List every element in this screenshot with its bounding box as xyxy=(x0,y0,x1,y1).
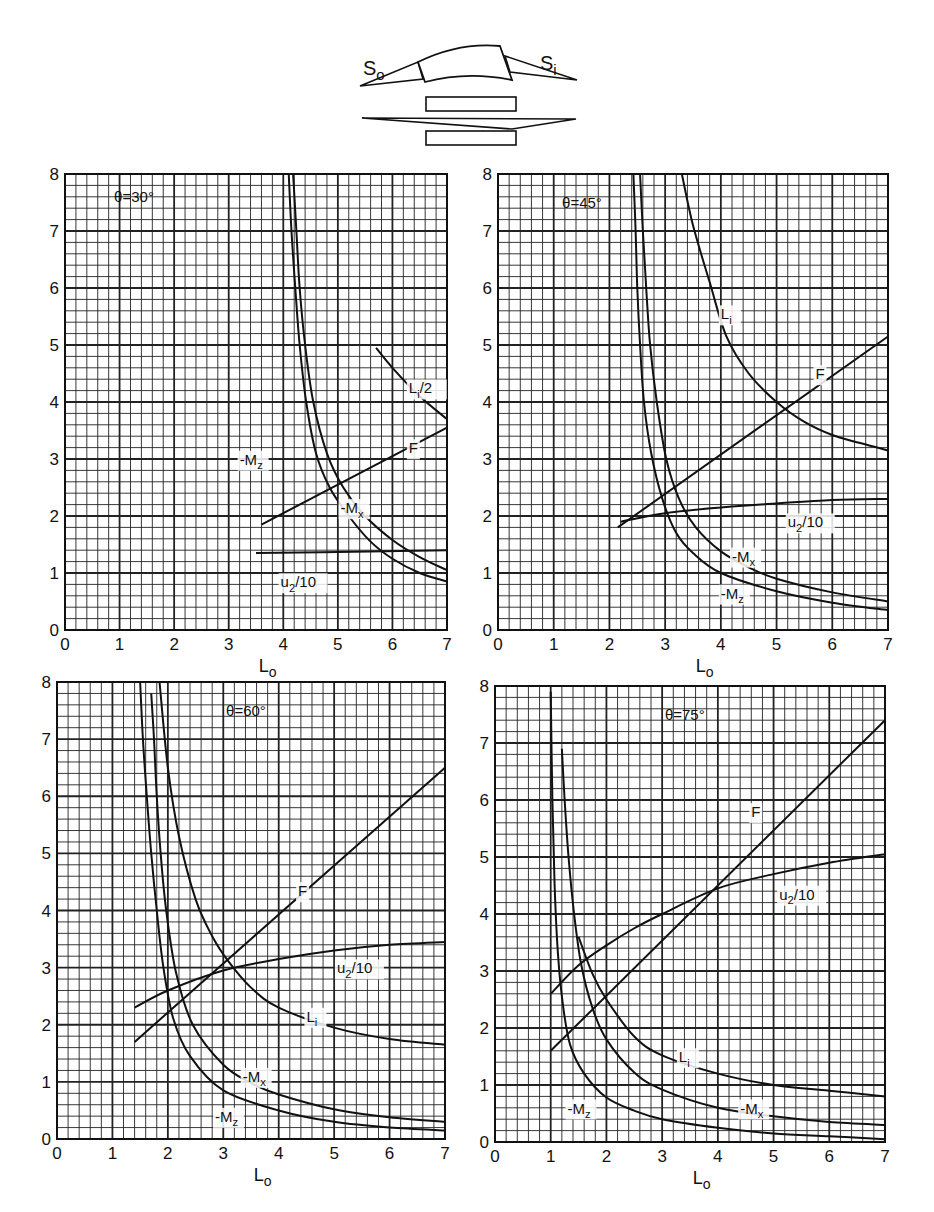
series-curve xyxy=(640,174,888,602)
x-tick-label: 5 xyxy=(772,635,781,654)
y-tick-label: 1 xyxy=(480,1076,489,1095)
x-tick-label: 4 xyxy=(279,635,288,654)
x-tick-label: 6 xyxy=(828,635,837,654)
y-tick-label: 8 xyxy=(50,165,59,184)
x-tick-label: 7 xyxy=(440,1144,449,1163)
y-tick-label: 4 xyxy=(483,393,492,412)
figure: So Si 01234567012345678Loθ=30°-Mz-MxFu2/… xyxy=(0,0,934,1212)
grid xyxy=(498,174,888,630)
y-tick-label: 5 xyxy=(480,848,489,867)
y-tick-label: 1 xyxy=(50,564,59,583)
series-curve xyxy=(682,174,888,450)
x-tick-label: 7 xyxy=(883,635,892,654)
x-tick-label: 0 xyxy=(52,1144,61,1163)
x-tick-label: 5 xyxy=(769,1147,778,1166)
x-tick-label: 0 xyxy=(490,1147,499,1166)
y-tick-label: 3 xyxy=(42,959,51,978)
y-tick-label: 8 xyxy=(483,165,492,184)
y-tick-label: 5 xyxy=(50,336,59,355)
y-tick-label: 3 xyxy=(480,962,489,981)
y-tick-label: 2 xyxy=(42,1016,51,1035)
x-tick-label: 1 xyxy=(549,635,558,654)
x-tick-label: 7 xyxy=(880,1147,889,1166)
y-tick-label: 5 xyxy=(483,336,492,355)
chart-panel-1: 01234567012345678Loθ=30°-Mz-MxFu2/10Li/2 xyxy=(50,165,452,680)
y-tick-label: 0 xyxy=(483,621,492,640)
y-tick-label: 0 xyxy=(480,1133,489,1152)
y-tick-label: 3 xyxy=(483,450,492,469)
chart-panel-3: 01234567012345678Loθ=60°-Mz-MxFu2/10Li xyxy=(42,673,450,1189)
y-tick-label: 7 xyxy=(42,730,51,749)
series-label: F xyxy=(409,439,418,456)
y-tick-label: 2 xyxy=(50,507,59,526)
x-tick-label: 0 xyxy=(60,635,69,654)
x-tick-label: 7 xyxy=(442,635,451,654)
x-tick-label: 5 xyxy=(329,1144,338,1163)
y-tick-label: 6 xyxy=(483,279,492,298)
x-tick-label: 5 xyxy=(333,635,342,654)
chart-title: θ=75° xyxy=(665,706,705,723)
y-tick-label: 4 xyxy=(50,393,59,412)
y-tick-label: 1 xyxy=(483,564,492,583)
series-label: F xyxy=(751,803,760,820)
y-tick-label: 7 xyxy=(483,222,492,241)
x-tick-label: 1 xyxy=(108,1144,117,1163)
x-tick-label: 3 xyxy=(224,635,233,654)
x-tick-label: 4 xyxy=(713,1147,722,1166)
chart-panel-2: 01234567012345678Loθ=45°-Mz-MxFu2/10Li xyxy=(483,165,893,680)
x-tick-label: 2 xyxy=(602,1147,611,1166)
y-tick-label: 6 xyxy=(42,787,51,806)
chart-grid: 01234567012345678Loθ=30°-Mz-MxFu2/10Li/2… xyxy=(0,0,934,1212)
series-curve xyxy=(140,682,445,1130)
x-tick-label: 1 xyxy=(546,1147,555,1166)
y-tick-label: 7 xyxy=(50,222,59,241)
x-tick-label: 3 xyxy=(660,635,669,654)
y-tick-label: 6 xyxy=(480,791,489,810)
y-tick-label: 8 xyxy=(480,677,489,696)
y-tick-label: 7 xyxy=(480,734,489,753)
x-tick-label: 2 xyxy=(169,635,178,654)
series-label: F xyxy=(298,882,307,899)
x-tick-label: 2 xyxy=(163,1144,172,1163)
y-tick-label: 1 xyxy=(42,1073,51,1092)
x-tick-label: 3 xyxy=(219,1144,228,1163)
y-tick-label: 0 xyxy=(50,621,59,640)
x-tick-label: 1 xyxy=(115,635,124,654)
y-tick-label: 6 xyxy=(50,279,59,298)
y-tick-label: 2 xyxy=(483,507,492,526)
x-axis-label: Lo xyxy=(696,656,714,680)
series-label: F xyxy=(816,365,825,382)
y-tick-label: 4 xyxy=(480,905,489,924)
series-curve xyxy=(633,174,888,610)
x-tick-label: 6 xyxy=(385,1144,394,1163)
grid xyxy=(65,174,447,630)
chart-panel-4: 01234567012345678Loθ=75°-Mz-MxFu2/10Li xyxy=(480,677,890,1192)
x-axis-label: Lo xyxy=(259,656,277,680)
x-axis-label: Lo xyxy=(693,1168,711,1192)
x-tick-label: 4 xyxy=(274,1144,283,1163)
y-tick-label: 4 xyxy=(42,902,51,921)
x-tick-label: 3 xyxy=(657,1147,666,1166)
x-tick-label: 6 xyxy=(825,1147,834,1166)
chart-title: θ=30° xyxy=(114,188,154,205)
y-tick-label: 8 xyxy=(42,673,51,692)
y-tick-label: 3 xyxy=(50,450,59,469)
x-tick-label: 4 xyxy=(716,635,725,654)
y-tick-label: 0 xyxy=(42,1130,51,1149)
y-tick-label: 2 xyxy=(480,1019,489,1038)
series-curve xyxy=(289,174,447,582)
y-tick-label: 5 xyxy=(42,844,51,863)
x-tick-label: 0 xyxy=(493,635,502,654)
x-tick-label: 2 xyxy=(605,635,614,654)
chart-title: θ=45° xyxy=(562,194,602,211)
x-tick-label: 6 xyxy=(388,635,397,654)
x-axis-label: Lo xyxy=(254,1165,272,1189)
chart-title: θ=60° xyxy=(226,702,266,719)
